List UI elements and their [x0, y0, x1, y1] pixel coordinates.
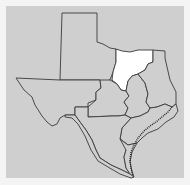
region-panhandle[interactable] — [60, 13, 116, 82]
texas-map — [0, 0, 190, 185]
region-layer — [16, 13, 178, 178]
